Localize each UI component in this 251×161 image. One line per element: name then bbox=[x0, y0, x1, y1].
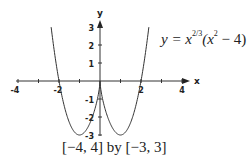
function-graph: -4 -2 2 4 x 3 2 1 -1 -2 -3 y bbox=[0, 0, 251, 161]
window-caption: [−4, 4] by [−3, 3] bbox=[62, 139, 166, 156]
x-tick-label: -4 bbox=[11, 86, 20, 95]
equation-square: 2 bbox=[214, 29, 218, 38]
x-axis-arrow-icon bbox=[182, 78, 190, 84]
x-tick-label: 4 bbox=[179, 86, 185, 95]
equation-base: y = x bbox=[161, 31, 192, 47]
equation-exponent: 2/3 bbox=[192, 29, 202, 38]
y-tick-label: -1 bbox=[85, 96, 94, 105]
equation-paren: (x bbox=[202, 31, 214, 47]
equation-rest: − 4) bbox=[218, 31, 246, 47]
y-tick-label: 1 bbox=[88, 60, 94, 69]
x-axis-label: x bbox=[194, 76, 200, 86]
equation-label: y = x2/3(x2 − 4) bbox=[161, 31, 246, 48]
y-tick-label: 2 bbox=[88, 42, 94, 51]
y-tick-label: 3 bbox=[88, 24, 94, 33]
y-axis-label: y bbox=[97, 8, 103, 18]
